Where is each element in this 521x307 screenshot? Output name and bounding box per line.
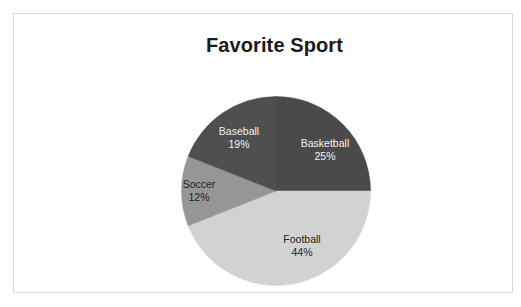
pie-slice-group <box>182 97 371 286</box>
pie-svg <box>181 96 371 286</box>
pie-slice-basketball <box>276 97 371 192</box>
chart-title: Favorite Sport <box>14 35 521 55</box>
figure-frame: Favorite Sport Basketball 25% Football 4… <box>13 13 513 293</box>
pie-chart <box>181 96 371 286</box>
